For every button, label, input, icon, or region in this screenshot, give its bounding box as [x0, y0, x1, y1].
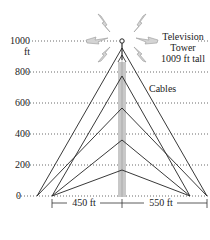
y-tick-600: 600 [0, 98, 30, 108]
dimension-left: 450 ft [68, 198, 100, 208]
dimension-right: 550 ft [145, 198, 177, 208]
y-tick-400: 400 [0, 129, 30, 139]
y-tick-1000: 1000 [0, 36, 30, 46]
y-tick-800: 800 [0, 67, 30, 77]
y-tick-200: 200 [0, 160, 30, 170]
tower-label-line1: Television [156, 32, 210, 42]
y-tick-0: 0 [0, 191, 21, 201]
tower-label-line3: 1009 ft tall [156, 54, 210, 64]
y-unit: ft [0, 47, 30, 57]
cables-label: Cables [149, 84, 176, 94]
tower-label-line2: Tower [156, 43, 210, 53]
